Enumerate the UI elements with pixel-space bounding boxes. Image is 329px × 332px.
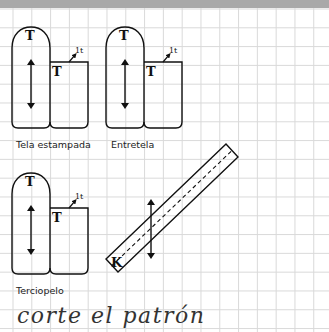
fold-mark-label: 1t [75, 46, 83, 55]
piece-letter: T [25, 28, 35, 43]
bias-strip-letter: K [111, 255, 122, 270]
fold-arrow-icon [69, 55, 75, 62]
pattern-piece-terciopelo [12, 173, 88, 274]
bias-strip [106, 144, 238, 272]
piece-letter: T [146, 64, 156, 79]
fold-mark-label: 1t [75, 192, 83, 201]
fold-arrow-icon [69, 201, 75, 208]
piece-letter: T [52, 210, 62, 225]
bias-strip-centerline [112, 151, 232, 266]
piece-letter: T [52, 64, 62, 79]
piece-letter: T [119, 28, 129, 43]
pattern-piece-entretela [106, 27, 182, 128]
fabric-label-terciopelo: Terciopelo [16, 285, 64, 296]
pattern-diagram [0, 0, 329, 332]
fold-arrow-icon [163, 55, 169, 62]
fabric-label-tela-estampada: Tela estampada [16, 139, 91, 150]
pattern-piece-tela-estampada [12, 27, 88, 128]
piece-letter: T [25, 174, 35, 189]
fabric-label-entretela: Entretela [111, 139, 154, 150]
fold-mark-label: 1t [169, 46, 177, 55]
caption-handwritten: corte el patrón [17, 303, 205, 328]
